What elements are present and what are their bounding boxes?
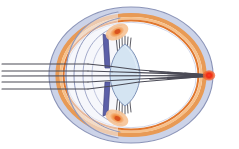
eye-cross-section-diagram: Human eye cross-section with parallel li… — [0, 0, 239, 149]
focal-point — [203, 70, 215, 80]
eye-diagram-canvas: Human eye cross-section with parallel li… — [0, 0, 239, 149]
